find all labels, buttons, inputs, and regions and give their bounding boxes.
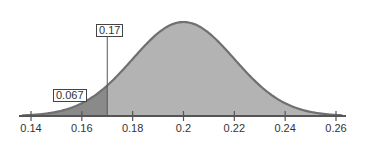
cutoff-label: 0.17 [96,24,123,37]
x-tick-label: 0.14 [20,122,41,134]
x-tick-label: 0.24 [274,122,295,134]
x-tick-label: 0.22 [224,122,245,134]
x-tick-label: 0.16 [71,122,92,134]
x-tick-label: 0.2 [176,122,191,134]
shaded-area-label: 0.067 [53,89,87,102]
x-tick-label: 0.26 [325,122,346,134]
x-tick-label: 0.18 [122,122,143,134]
